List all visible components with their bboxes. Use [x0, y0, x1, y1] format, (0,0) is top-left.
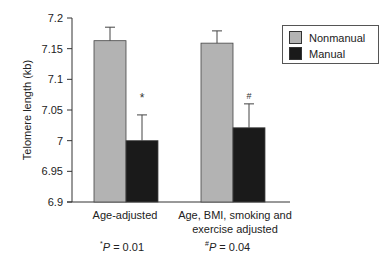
- legend-swatch-nonmanual: [289, 31, 302, 44]
- y-tick-label: 6.9: [48, 196, 63, 208]
- p-value-note: #P = 0.04: [205, 240, 250, 253]
- y-tick-label: 7: [57, 135, 63, 147]
- y-tick-label: 7.05: [42, 104, 63, 116]
- legend-swatch-manual: [289, 47, 302, 60]
- y-tick-label: 7.1: [48, 73, 63, 85]
- y-axis-label: Telomere length (kb): [21, 60, 33, 160]
- legend-item-manual: Manual: [289, 47, 345, 60]
- bar-nonmanual: [201, 43, 233, 202]
- legend: Nonmanual Manual: [282, 25, 379, 64]
- x-category-line: Age, BMI, smoking and: [170, 208, 300, 222]
- x-category-label: Age, BMI, smoking and exercise adjusted: [170, 208, 300, 236]
- p-label: P: [103, 241, 110, 253]
- legend-item-nonmanual: Nonmanual: [289, 31, 365, 44]
- x-category-line: exercise adjusted: [170, 222, 300, 236]
- bar-manual: [233, 128, 265, 202]
- y-tick-label: 7.15: [42, 43, 63, 55]
- bar-nonmanual: [94, 41, 126, 202]
- p-text: = 0.04: [216, 241, 250, 253]
- significance-marker: #: [246, 91, 251, 101]
- significance-marker: *: [140, 91, 145, 105]
- x-category-line: Age-adjusted: [80, 208, 170, 222]
- p-text: = 0.01: [110, 241, 144, 253]
- bar-manual: [126, 141, 158, 202]
- y-tick-label: 7.2: [48, 12, 63, 24]
- legend-label: Manual: [309, 48, 345, 60]
- y-tick-label: 6.95: [42, 165, 63, 177]
- legend-label: Nonmanual: [309, 32, 365, 44]
- x-category-label: Age-adjusted: [80, 208, 170, 222]
- p-value-note: *P = 0.01: [100, 240, 144, 253]
